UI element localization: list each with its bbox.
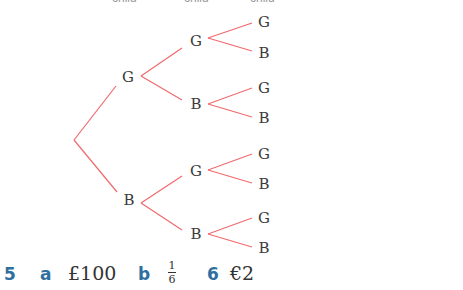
node-l3-1: G bbox=[258, 13, 270, 31]
node-l3-7: G bbox=[258, 209, 270, 227]
question-number-6: 6 bbox=[207, 264, 219, 284]
tree-diagram: G B G B G B G B G B G B G B bbox=[0, 0, 463, 262]
branch-gg-g bbox=[208, 23, 252, 38]
node-l1-g: G bbox=[122, 68, 134, 86]
part-label-a: a bbox=[40, 264, 51, 284]
branch-bg-g bbox=[208, 154, 252, 170]
node-l3-8: B bbox=[258, 239, 269, 257]
node-l2-3: G bbox=[190, 162, 202, 180]
branch-g-b bbox=[141, 76, 182, 100]
branch-bb-g bbox=[208, 218, 252, 234]
node-l2-1: G bbox=[190, 32, 202, 50]
fraction-denominator: 6 bbox=[169, 274, 176, 285]
branch-root-b bbox=[74, 140, 117, 192]
part-label-b: b bbox=[138, 264, 150, 284]
answer-5a: £100 bbox=[68, 262, 116, 284]
answer-5b-fraction: 1 6 bbox=[168, 260, 176, 285]
branch-bg-b bbox=[208, 170, 252, 183]
answers-row: 5 a £100 b 1 6 6 €2 bbox=[0, 264, 463, 290]
question-number-5: 5 bbox=[4, 264, 16, 284]
node-l3-4: B bbox=[258, 109, 269, 127]
node-l3-5: G bbox=[258, 145, 270, 163]
node-l3-6: B bbox=[258, 175, 269, 193]
fraction-numerator: 1 bbox=[169, 260, 176, 271]
node-l2-2: B bbox=[190, 95, 201, 113]
branch-gg-b bbox=[208, 38, 252, 51]
answer-6: €2 bbox=[230, 262, 254, 284]
node-l3-2: B bbox=[258, 44, 269, 62]
branch-bb-b bbox=[208, 234, 252, 247]
branch-g-g bbox=[141, 48, 182, 76]
branch-gb-b bbox=[208, 104, 252, 117]
branch-gb-g bbox=[208, 88, 252, 104]
branch-root-g bbox=[74, 86, 116, 140]
node-l1-b: B bbox=[123, 191, 134, 209]
node-l2-4: B bbox=[190, 225, 201, 243]
node-l3-3: G bbox=[258, 79, 270, 97]
branch-b-g bbox=[141, 176, 182, 203]
branch-b-b bbox=[141, 203, 182, 230]
